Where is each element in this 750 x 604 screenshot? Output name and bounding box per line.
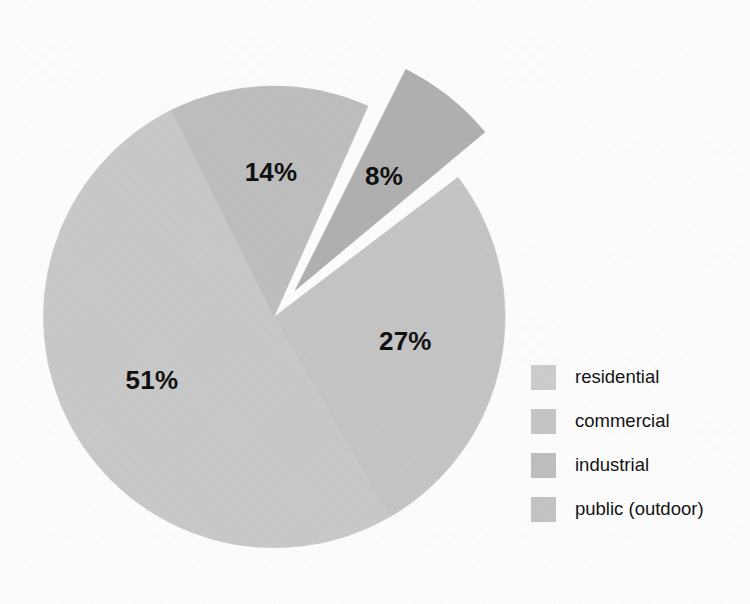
legend-label-commercial: commercial bbox=[575, 412, 670, 431]
legend-label-industrial: industrial bbox=[575, 456, 649, 475]
legend-label-public-outdoor: public (outdoor) bbox=[575, 500, 704, 519]
legend-item-industrial[interactable]: industrial bbox=[531, 443, 746, 487]
legend-swatch-industrial bbox=[531, 453, 556, 478]
slice-label-commercial: 27% bbox=[379, 326, 432, 356]
legend-swatch-commercial bbox=[531, 409, 556, 434]
slice-label-public-outdoor: 8% bbox=[365, 161, 403, 191]
legend-item-public-outdoor[interactable]: public (outdoor) bbox=[531, 487, 746, 531]
legend-swatch-public-outdoor bbox=[531, 497, 556, 522]
legend-swatch-residential bbox=[531, 365, 556, 390]
legend-item-commercial[interactable]: commercial bbox=[531, 399, 746, 443]
legend-label-residential: residential bbox=[575, 368, 659, 387]
slice-label-industrial: 14% bbox=[245, 157, 298, 187]
legend: residential commercial industrial public… bbox=[531, 355, 746, 531]
slice-label-residential: 51% bbox=[126, 365, 179, 395]
legend-item-residential[interactable]: residential bbox=[531, 355, 746, 399]
pie-chart: 8% 14% 27% 51% residential commercial in… bbox=[0, 0, 750, 604]
